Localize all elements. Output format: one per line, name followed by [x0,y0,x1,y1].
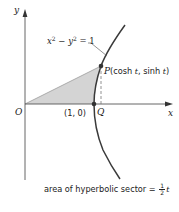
y-axis-label: y [14,6,19,15]
P-coords-open: (cosh [110,66,135,76]
vertex-label: (1, 0) [64,109,86,117]
origin-label: O [15,108,22,117]
sector-area-caption: area of hyperbolic sector = 12t [44,183,169,196]
point-Q-label: Q [97,108,104,117]
eq-equals: = 1 [77,36,95,46]
P-coords-mid: , sinh [138,66,163,76]
point-P-dot [99,64,104,69]
caption-var-t: t [166,185,169,194]
P-coords-close: ) [166,66,169,76]
hyperbola-curve [94,25,125,179]
diagram-canvas [0,0,179,212]
caption-text: area of hyperbolic sector = [44,184,158,194]
vertex-dot [92,102,97,107]
x-axis-label: x [168,109,173,118]
hyperbola-equation: x2 − y2 = 1 [47,37,95,46]
eq-minus: − [56,36,69,46]
x-axis-arrow-icon [165,102,173,107]
frac-denominator: 2 [159,190,165,196]
point-P-label: P(cosh t, sinh t) [104,61,169,77]
hyperbolic-sector-diagram: y x O x2 − y2 = 1 P(cosh t, sinh t) (1, … [0,0,179,212]
one-half-fraction: 12 [159,183,165,196]
y-axis-arrow-icon [23,9,28,17]
